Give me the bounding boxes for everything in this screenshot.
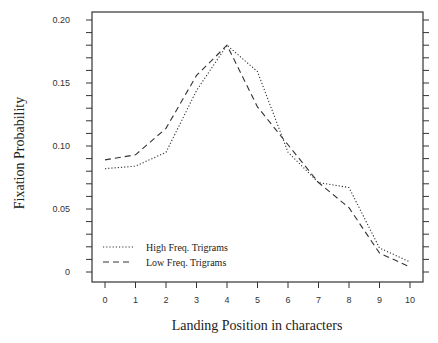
line-chart: 00.050.100.150.20 012345678910 High Freq… — [0, 0, 438, 343]
x-axis: 012345678910 — [102, 282, 415, 305]
y-axis: 00.050.100.150.20 — [52, 15, 429, 277]
x-tick-label: 5 — [255, 295, 260, 305]
legend: High Freq. TrigramsLow Freq. Trigrams — [103, 242, 228, 268]
legend-label: Low Freq. Trigrams — [146, 257, 226, 268]
high-freq-line — [105, 45, 410, 262]
x-tick-label: 7 — [316, 295, 321, 305]
y-tick-label: 0 — [65, 267, 70, 277]
x-axis-label: Landing Position in characters — [172, 318, 343, 333]
x-tick-label: 1 — [133, 295, 138, 305]
plot-frame — [92, 12, 423, 282]
legend-label: High Freq. Trigrams — [146, 242, 228, 253]
x-tick-label: 4 — [224, 295, 229, 305]
x-tick-label: 3 — [194, 295, 199, 305]
y-axis-label: Fixation Probability — [12, 97, 27, 209]
x-tick-label: 6 — [285, 295, 290, 305]
y-tick-label: 0.15 — [52, 78, 70, 88]
x-tick-label: 0 — [102, 295, 107, 305]
x-tick-label: 8 — [346, 295, 351, 305]
low-freq-line — [105, 45, 410, 267]
x-tick-label: 2 — [163, 295, 168, 305]
series-lines — [105, 45, 410, 267]
y-tick-label: 0.20 — [52, 15, 70, 25]
y-tick-label: 0.10 — [52, 141, 70, 151]
x-tick-label: 9 — [377, 295, 382, 305]
x-tick-label: 10 — [405, 295, 415, 305]
y-tick-label: 0.05 — [52, 204, 70, 214]
plot-border — [92, 12, 423, 282]
